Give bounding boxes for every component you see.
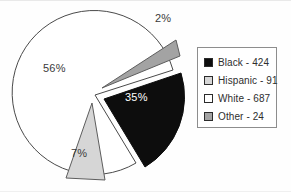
pie-label-hispanic: 7% bbox=[71, 147, 87, 159]
legend-label-white: White - 687 bbox=[218, 93, 270, 104]
pie-label-other: 2% bbox=[155, 12, 171, 24]
legend-swatch-other-icon bbox=[204, 112, 213, 121]
legend-item-black: Black - 424 bbox=[204, 53, 276, 71]
legend-swatch-hispanic-icon bbox=[204, 76, 213, 85]
legend-item-white: White - 687 bbox=[204, 89, 276, 107]
chart-legend: Black - 424 Hispanic - 91 White - 687 Ot… bbox=[197, 47, 277, 128]
pie-slices-svg bbox=[0, 0, 190, 192]
legend-item-hispanic: Hispanic - 91 bbox=[204, 71, 276, 89]
legend-label-black: Black - 424 bbox=[218, 57, 269, 68]
pie-chart-plot-area: 56% 35% 7% 2% bbox=[0, 0, 190, 192]
legend-item-other: Other - 24 bbox=[204, 107, 276, 125]
legend-label-other: Other - 24 bbox=[218, 111, 264, 122]
legend-swatch-black-icon bbox=[204, 58, 213, 67]
pie-chart-figure: 56% 35% 7% 2% Black - 424 Hispanic - 91 … bbox=[0, 0, 291, 192]
pie-label-black: 35% bbox=[125, 91, 148, 103]
legend-swatch-white-icon bbox=[204, 94, 213, 103]
pie-label-white: 56% bbox=[43, 62, 66, 74]
legend-label-hispanic: Hispanic - 91 bbox=[218, 75, 278, 86]
